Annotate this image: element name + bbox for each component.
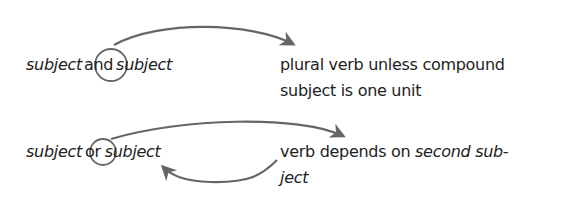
conjunction-and: and xyxy=(82,55,116,74)
and-arrow xyxy=(114,27,293,45)
rule2-italic: second sub- xyxy=(415,142,508,161)
rule1-formula: subjectandsubject xyxy=(26,52,172,78)
rule1-explanation-line1: plural verb unless compound xyxy=(280,52,505,78)
subject-a: subject xyxy=(26,55,82,74)
rule2-explanation-line1: verb depends on second sub- xyxy=(280,139,508,165)
subject-b: subject xyxy=(116,55,172,74)
rule2-formula: subjectorsubject xyxy=(26,139,161,165)
subject-a: subject xyxy=(26,142,82,161)
subject-b: subject xyxy=(105,142,161,161)
rule2-plain: verb depends on xyxy=(280,142,415,161)
second-subject-arrow xyxy=(163,160,277,182)
rule2-explanation-line2: ject xyxy=(280,165,308,191)
or-arrow xyxy=(111,122,343,139)
conjunction-or: or xyxy=(82,142,105,161)
rule1-explanation-line2: subject is one unit xyxy=(280,78,421,104)
